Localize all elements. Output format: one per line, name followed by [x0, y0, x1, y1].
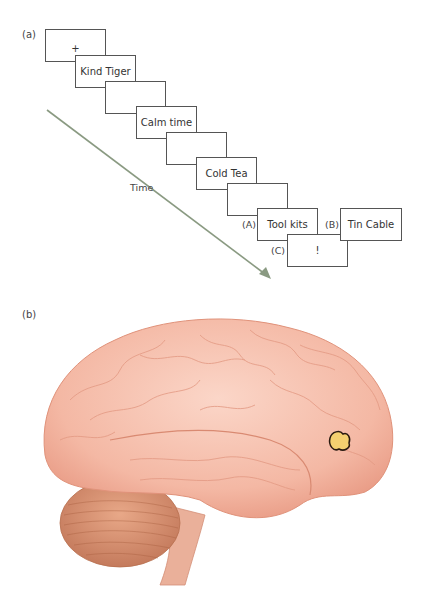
brain-illustration [0, 0, 423, 602]
activation-spot [330, 432, 350, 450]
